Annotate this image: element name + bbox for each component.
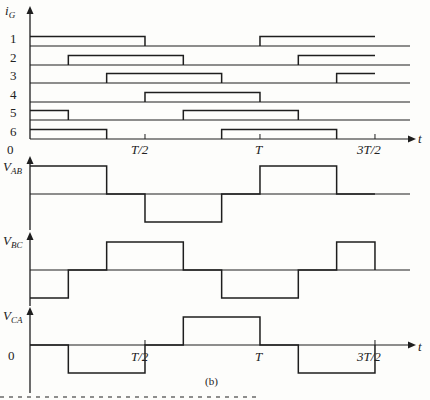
voltage-y-axis-arrow-icon xyxy=(27,307,34,315)
gate-pulse xyxy=(222,130,337,140)
tick-label-t-bottom: T xyxy=(255,350,262,363)
vbc-label: VBC xyxy=(3,234,22,252)
gate-row-label: 2 xyxy=(10,51,17,64)
gate-pulse xyxy=(30,130,107,140)
tick-label-3t-half-bottom: 3T/2 xyxy=(357,350,381,363)
voltage-y-axis-arrow-icon xyxy=(27,156,34,164)
tick-label-t-half: T/2 xyxy=(131,143,148,156)
gate-pulse xyxy=(145,93,260,103)
ig-y-axis-arrow-icon xyxy=(27,6,34,14)
gate-pulse xyxy=(183,111,298,121)
vab-label: VAB xyxy=(3,160,22,178)
t-axis-label-bottom: t xyxy=(418,340,422,353)
tick-label-t: T xyxy=(255,143,262,156)
cropped-text-line xyxy=(0,393,260,400)
ig-axis-label: iG xyxy=(5,4,15,22)
gate-pulse xyxy=(260,37,375,47)
gate-pulse xyxy=(30,37,145,47)
waveform-diagram xyxy=(0,0,430,400)
zero-label-bottom: 0 xyxy=(8,349,15,362)
gate-row-label: 4 xyxy=(10,88,17,101)
voltage-waveform xyxy=(30,242,375,298)
zero-label-top: 0 xyxy=(7,143,14,156)
voltage-y-axis-arrow-icon xyxy=(27,232,34,240)
gate-pulse xyxy=(337,74,375,84)
vca-label: VCA xyxy=(3,309,22,327)
figure-caption: (b) xyxy=(205,375,218,387)
tick-label-3t-half: 3T/2 xyxy=(357,143,381,156)
tick-label-t-half-bottom: T/2 xyxy=(131,350,148,363)
t-axis-label-top: t xyxy=(418,132,422,145)
gate-pulse xyxy=(30,111,68,121)
gate-pulse xyxy=(298,56,375,66)
gate-row-label: 1 xyxy=(10,32,17,45)
gate-row-label: 6 xyxy=(10,125,17,138)
gate-row-label: 3 xyxy=(10,69,17,82)
gate-pulse xyxy=(68,56,183,66)
gate-row-label: 5 xyxy=(10,106,17,119)
t-axis-top-arrow-icon xyxy=(408,136,416,143)
gate-pulse xyxy=(107,74,222,84)
t-axis-bottom-arrow-icon xyxy=(408,342,416,349)
